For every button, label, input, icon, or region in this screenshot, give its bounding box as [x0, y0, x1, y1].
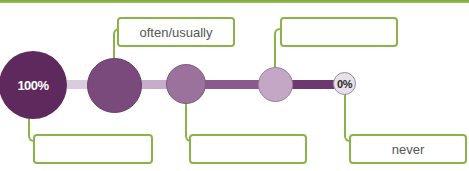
- end-percent-label: 0%: [337, 78, 352, 90]
- answer-box-often-usually[interactable]: often/usually: [117, 17, 235, 47]
- answer-box-bottom-1[interactable]: [33, 134, 153, 164]
- answer-box-text: never: [392, 142, 425, 157]
- frequency-circle-100: 100%: [0, 51, 67, 119]
- frequency-circle-3: [166, 64, 206, 104]
- scale-bar-segment-3: [202, 80, 262, 89]
- start-percent-label: 100%: [17, 78, 48, 93]
- header-strip: [0, 0, 469, 3]
- frequency-circle-0: 0%: [333, 72, 356, 95]
- frequency-circle-4: [258, 67, 293, 102]
- answer-box-text: often/usually: [140, 25, 213, 40]
- scale-bar-segment-4: [289, 80, 337, 89]
- answer-box-bottom-2[interactable]: [189, 134, 307, 164]
- answer-box-never[interactable]: never: [349, 134, 467, 164]
- answer-box-top-2[interactable]: [280, 17, 398, 47]
- frequency-circle-2: [87, 58, 142, 113]
